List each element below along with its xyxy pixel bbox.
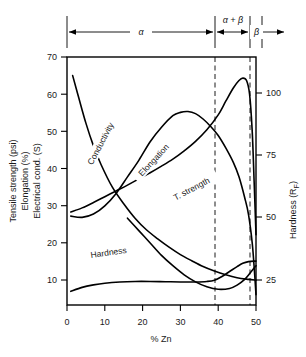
curve-label-text: Conductivity xyxy=(85,120,116,166)
y-axis-left-title-line3: Electrical cond. (S) xyxy=(32,143,42,219)
x-tick-50: 50 xyxy=(251,317,261,327)
y-tick-left-60: 60 xyxy=(47,90,57,100)
curve-label-elongation: Elongation xyxy=(131,137,175,183)
chart-figure: α α + β β 10 20 30 40 50 60 70 xyxy=(0,0,306,357)
y-axis-left-title-line1: Tensile strength (psi) xyxy=(8,139,18,222)
x-tick-40: 40 xyxy=(213,317,223,327)
curve-label-hardness: Hardness xyxy=(86,243,130,260)
phase-label-alpha: α xyxy=(138,27,144,37)
arrow-right-beta xyxy=(277,29,284,35)
arrow-left-alpha-beta xyxy=(217,29,224,35)
arrow-left-alpha xyxy=(69,29,76,35)
phase-label-beta: β xyxy=(253,27,259,37)
y-axis-right-title-main: Hardness (R xyxy=(288,188,298,239)
curve-label-text: Hardness xyxy=(90,245,127,260)
y-axis-right-title-tail: ) xyxy=(288,181,298,184)
plot-frame xyxy=(67,57,256,305)
phase-label-alpha-beta: α + β xyxy=(223,15,244,25)
y-tick-right-75: 75 xyxy=(266,150,276,160)
x-tick-10: 10 xyxy=(100,317,110,327)
arrow-right-alpha-beta xyxy=(241,29,248,35)
y-tick-left-20: 20 xyxy=(47,238,57,248)
curve-label-text: Elongation xyxy=(136,142,171,178)
x-tick-0: 0 xyxy=(64,317,69,327)
x-tick-20: 20 xyxy=(138,317,148,327)
svg-text:Hardness (RF): Hardness (RF) xyxy=(288,181,300,239)
y-tick-left-40: 40 xyxy=(47,164,57,174)
y-axis-right-title: Hardness (RF) xyxy=(288,181,300,239)
chart-svg: α α + β β 10 20 30 40 50 60 70 xyxy=(0,0,306,357)
curve-label-layer: ConductivityElongationT. strengthHardnes… xyxy=(81,113,220,260)
arrow-right-alpha xyxy=(206,29,213,35)
curve-layer xyxy=(71,76,256,295)
y-axis-left-title: Tensile strength (psi) Elongation (%) El… xyxy=(8,139,42,222)
y-axis-left-title-line2: Elongation (%) xyxy=(20,151,30,210)
y-tick-right-25: 25 xyxy=(266,275,276,285)
curve-conductivity-rise xyxy=(127,218,256,289)
curve-label-t-strength: T. strength xyxy=(163,170,219,207)
y-tick-right-100: 100 xyxy=(266,88,281,98)
x-axis-title: % Zn xyxy=(150,334,171,344)
x-axis-ticks: 0 10 20 30 40 50 xyxy=(64,305,261,327)
y-tick-left-70: 70 xyxy=(47,52,57,62)
y-axis-left-ticks: 10 20 30 40 50 60 70 xyxy=(47,52,67,285)
y-tick-left-10: 10 xyxy=(47,275,57,285)
y-tick-left-30: 30 xyxy=(47,201,57,211)
phase-bracket-group: α α + β β xyxy=(67,12,284,48)
y-tick-right-50: 50 xyxy=(266,212,276,222)
y-tick-left-50: 50 xyxy=(47,127,57,137)
curve-label-text: T. strength xyxy=(172,175,212,203)
y-axis-right-ticks: 25 50 75 100 xyxy=(256,88,281,285)
x-tick-30: 30 xyxy=(175,317,185,327)
